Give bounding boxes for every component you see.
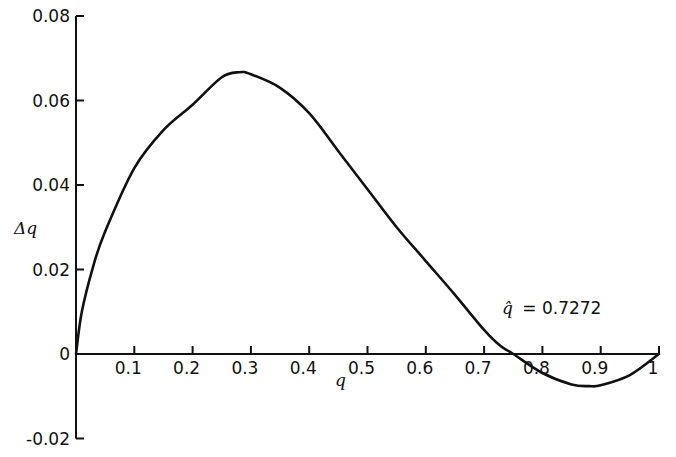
y-tick-label: 0 xyxy=(59,344,70,364)
x-tick-label: 0.2 xyxy=(173,358,200,378)
y-tick-label: -0.02 xyxy=(26,429,70,449)
delta-q-curve xyxy=(76,72,659,386)
equilibrium-annotation: q̂ = 0.7272 xyxy=(502,298,601,318)
delta-q-chart: 0.080.060.040.020-0.020.10.20.30.40.50.6… xyxy=(0,0,676,457)
x-tick-label: 0.1 xyxy=(115,358,142,378)
y-tick-label: 0.02 xyxy=(32,260,70,280)
x-tick-label: 0.9 xyxy=(581,358,608,378)
x-axis-label: q xyxy=(335,370,346,390)
y-axis-label: Δq xyxy=(13,218,37,238)
y-tick-label: 0.04 xyxy=(32,175,70,195)
x-tick-label: 0.7 xyxy=(465,358,492,378)
x-tick-label: 0.4 xyxy=(290,358,317,378)
x-tick-label: 0.6 xyxy=(406,358,433,378)
q-hat-value: = 0.7272 xyxy=(522,298,601,318)
q-hat-symbol: q̂ xyxy=(502,298,513,318)
x-tick-label: 0.5 xyxy=(348,358,375,378)
y-tick-label: 0.08 xyxy=(32,6,70,26)
x-tick-label: 0.3 xyxy=(231,358,258,378)
y-tick-label: 0.06 xyxy=(32,91,70,111)
